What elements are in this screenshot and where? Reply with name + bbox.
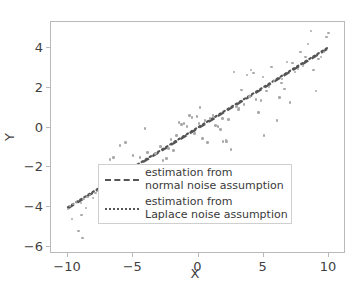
y-tick-mark	[46, 166, 50, 167]
scatter-point	[139, 156, 141, 158]
scatter-point	[278, 96, 280, 98]
scatter-point	[225, 140, 227, 142]
legend-box: estimation from normal noise assumption …	[98, 164, 292, 224]
scatter-point	[227, 118, 229, 120]
scatter-point	[144, 127, 146, 129]
scatter-point	[219, 128, 221, 130]
y-tick-mark	[46, 246, 50, 247]
scatter-point	[77, 230, 79, 232]
x-tick-mark	[328, 253, 329, 257]
y-tick-mark	[46, 87, 50, 88]
x-tick-mark	[67, 253, 68, 257]
figure-canvas: −6−4−2024 −10−50510 X Y estimation from …	[0, 0, 363, 297]
scatter-point	[280, 82, 282, 84]
scatter-point	[248, 95, 250, 97]
scatter-point	[297, 68, 299, 70]
y-tick-label: −6	[10, 240, 43, 253]
scatter-point	[124, 141, 126, 143]
scatter-point	[165, 157, 167, 159]
scatter-point	[233, 71, 235, 73]
scatter-point	[146, 151, 148, 153]
x-tick-label: 5	[259, 260, 267, 273]
scatter-point	[276, 119, 278, 121]
y-axis-label: Y	[2, 133, 17, 141]
scatter-point	[237, 108, 239, 110]
scatter-point	[265, 90, 267, 92]
scatter-point	[230, 148, 232, 150]
legend-label-laplace: estimation from Laplace noise assumption	[145, 196, 288, 221]
scatter-point	[191, 116, 193, 118]
legend-entry-laplace: estimation from Laplace noise assumption	[99, 195, 291, 223]
scatter-point	[159, 145, 161, 147]
scatter-point	[186, 125, 188, 127]
scatter-point	[199, 106, 201, 108]
legend-line-dashed-icon	[105, 179, 139, 181]
y-tick-mark	[46, 127, 50, 128]
scatter-point	[315, 90, 317, 92]
scatter-point	[212, 114, 214, 116]
scatter-point	[109, 158, 111, 160]
x-tick-mark	[263, 253, 264, 257]
scatter-point	[221, 117, 223, 119]
scatter-point	[310, 30, 312, 32]
y-tick-label: 0	[10, 120, 43, 133]
scatter-point	[263, 134, 265, 136]
legend-entry-normal: estimation from normal noise assumption	[99, 166, 291, 194]
scatter-point	[112, 156, 114, 158]
scatter-point	[325, 36, 327, 38]
y-tick-label: 2	[10, 80, 43, 93]
scatter-point	[302, 65, 304, 67]
y-tick-mark	[46, 47, 50, 48]
y-tick-label: −2	[10, 160, 43, 173]
scatter-point	[250, 69, 252, 71]
legend-label-normal: estimation from normal noise assumption	[145, 167, 284, 192]
scatter-point	[312, 69, 314, 71]
scatter-point	[175, 134, 177, 136]
y-tick-label: −4	[10, 200, 43, 213]
scatter-point	[170, 138, 172, 140]
scatter-point	[255, 98, 257, 100]
x-axis-label: X	[191, 266, 200, 281]
scatter-point	[201, 137, 203, 139]
x-tick-mark	[198, 253, 199, 257]
scatter-point	[257, 111, 259, 113]
legend-line-dotted-icon	[105, 208, 139, 210]
x-tick-mark	[132, 253, 133, 257]
y-tick-label: 4	[10, 40, 43, 53]
x-tick-label: 10	[320, 260, 337, 273]
scatter-point	[268, 86, 270, 88]
scatter-point	[323, 51, 325, 53]
scatter-point	[167, 147, 169, 149]
scatter-point	[246, 74, 248, 76]
scatter-point	[317, 58, 319, 60]
y-tick-mark	[46, 206, 50, 207]
scatter-point	[327, 32, 329, 34]
scatter-point	[81, 237, 83, 239]
scatter-point	[299, 51, 301, 53]
scatter-point	[206, 141, 208, 143]
scatter-point	[252, 72, 254, 74]
scatter-point	[204, 119, 206, 121]
scatter-point	[289, 101, 291, 103]
scatter-point	[193, 132, 195, 134]
x-tick-label: −10	[53, 260, 80, 273]
scatter-point	[270, 66, 272, 68]
scatter-point	[304, 56, 306, 58]
scatter-point	[172, 149, 174, 151]
scatter-point	[291, 62, 293, 64]
scatter-point	[283, 88, 285, 90]
scatter-point	[240, 89, 242, 91]
scatter-point	[154, 152, 156, 154]
x-tick-label: −5	[123, 260, 142, 273]
